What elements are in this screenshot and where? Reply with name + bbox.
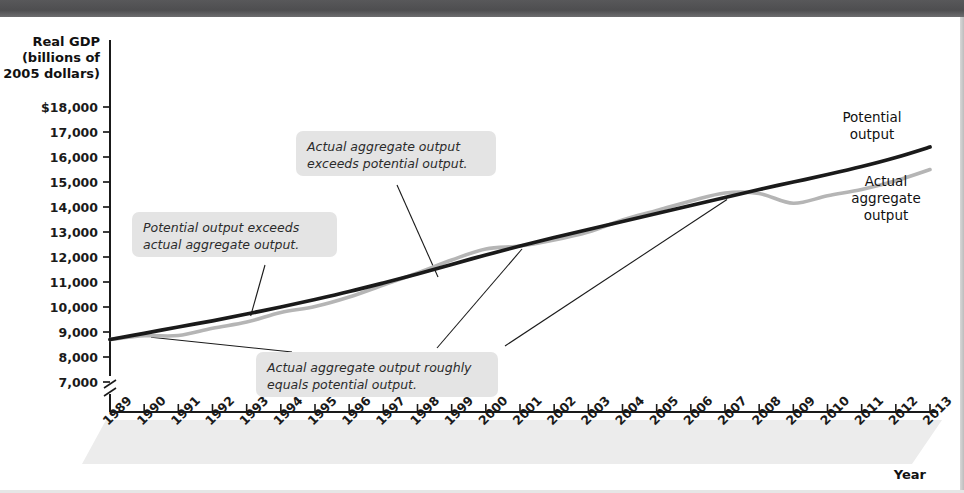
y-axis-tick-label: $18,000	[41, 100, 98, 115]
series-label-line: Actual	[865, 173, 907, 189]
y-axis-tick-label: 14,000	[50, 200, 99, 215]
callout-leader-line	[397, 185, 438, 277]
potential-output-label: Potentialoutput	[842, 109, 901, 142]
series-label-line: output	[864, 207, 909, 223]
callout-actual-exceeds-potential: Actual aggregate outputexceeds potential…	[296, 131, 496, 176]
callout-text-line: Actual aggregate output roughly	[266, 360, 472, 375]
callout-text-line: equals potential output.	[267, 377, 417, 392]
callout-leader-line	[251, 265, 265, 316]
y-axis-title-line: (billions of	[22, 50, 100, 65]
y-axis-title-line: Real GDP	[32, 34, 100, 49]
y-axis-tick-label: 8,000	[58, 350, 98, 365]
y-axis-tick-label: 11,000	[50, 275, 99, 290]
series-label-layer: PotentialoutputActualaggregateoutput	[842, 109, 920, 223]
callout-leader-line	[151, 337, 292, 352]
figure-root: $18,00017,00016,00015,00014,00013,00012,…	[0, 0, 964, 493]
callout-text-line: exceeds potential output.	[307, 156, 468, 171]
y-axis-tick-label: 10,000	[50, 300, 99, 315]
y-axis-tick-label: 7,000	[58, 375, 98, 390]
callout-text-line: Actual aggregate output	[306, 139, 461, 154]
series-label-line: output	[850, 126, 895, 142]
y-axis-tick-label: 15,000	[50, 175, 99, 190]
y-axis-title-line: 2005 dollars)	[3, 66, 100, 81]
y-axis-tick-label: 17,000	[50, 125, 99, 140]
y-axis-tick-label: 9,000	[58, 325, 98, 340]
callout-actual-equals-potential: Actual aggregate output roughlyequals po…	[256, 352, 498, 397]
y-axis-tick-label: 12,000	[50, 250, 99, 265]
callout-text-line: actual aggregate output.	[143, 237, 299, 252]
series-label-line: Potential	[842, 109, 901, 125]
y-axis-tick-label: 16,000	[50, 150, 99, 165]
y-tick-layer: $18,00017,00016,00015,00014,00013,00012,…	[41, 100, 110, 390]
y-axis-tick-label: 13,000	[50, 225, 99, 240]
gdp-chart: $18,00017,00016,00015,00014,00013,00012,…	[0, 0, 964, 493]
x-axis-title: Year	[893, 467, 927, 482]
series-label-line: aggregate	[851, 190, 920, 206]
callout-potential-exceeds-actual: Potential output exceedsactual aggregate…	[132, 212, 337, 257]
actual-output-label: Actualaggregateoutput	[851, 173, 920, 223]
callout-text-line: Potential output exceeds	[143, 220, 300, 235]
